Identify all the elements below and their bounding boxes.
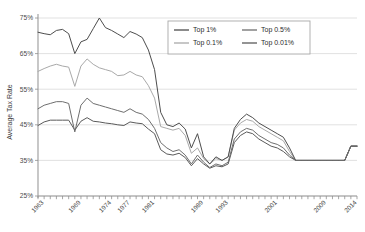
x-tick-label: 2001 [263, 198, 278, 213]
y-axis-title: Average Tax Rate [6, 84, 14, 139]
legend-label: Top 0.1% [193, 39, 222, 47]
y-tick-label: 75% [20, 14, 33, 21]
legend-label: Top 0.5% [261, 26, 290, 34]
x-tick-label: 1963 [30, 198, 45, 213]
series-line [38, 59, 357, 164]
chart-legend: Top 1%Top 0.5%Top 0.1%Top 0.01% [168, 21, 310, 54]
x-tick-label: 2009 [312, 198, 327, 213]
x-tick-label: 2014 [343, 198, 358, 213]
chart-container: 25%35%45%55%65%75% Average Tax Rate 1963… [0, 0, 365, 232]
x-tick-label: 1974 [97, 198, 112, 213]
y-tick-label: 35% [20, 157, 33, 164]
y-axis-tick-labels: 25%35%45%55%65%75% [20, 14, 38, 199]
legend-label: Top 1% [193, 26, 216, 34]
y-tick-label: 45% [20, 121, 33, 128]
x-tick-label: 1977 [116, 198, 131, 213]
x-tick-label: 1969 [67, 198, 82, 213]
y-tick-label: 65% [20, 50, 33, 57]
average-tax-rate-line-chart: 25%35%45%55%65%75% Average Tax Rate 1963… [0, 0, 365, 232]
x-tick-label: 1981 [140, 198, 155, 213]
series-line [38, 98, 357, 167]
x-tick-label: 1993 [214, 198, 229, 213]
x-tick-label: 1989 [189, 198, 204, 213]
y-tick-label: 25% [20, 192, 33, 199]
legend-label: Top 0.01% [261, 39, 294, 47]
y-tick-label: 55% [20, 86, 33, 93]
x-axis-tick-labels: 1963196919741977198119891993200120092014 [30, 198, 358, 213]
